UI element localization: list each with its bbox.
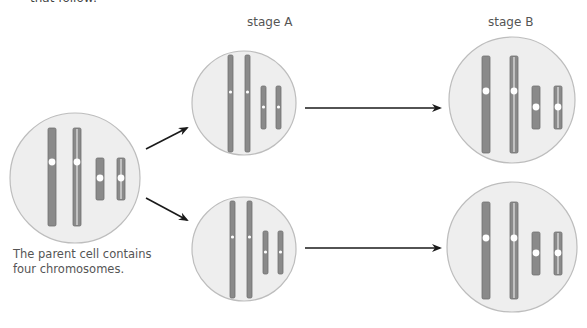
centromere <box>264 250 267 253</box>
chromosome-3 <box>263 231 268 274</box>
parent-cell-caption: The parent cell contains four chromosome… <box>13 247 173 277</box>
centromere <box>49 159 56 166</box>
chromosome-2 <box>247 201 252 298</box>
chromosome-4 <box>554 86 562 129</box>
centromere <box>97 175 104 182</box>
centromere <box>483 88 490 95</box>
chromosome-1 <box>482 202 490 299</box>
chromosome-1 <box>228 55 233 152</box>
centromere <box>246 90 249 93</box>
cell-division-diagram <box>0 0 587 328</box>
centromere <box>229 90 232 93</box>
centromere <box>533 250 540 257</box>
centromere <box>118 175 125 182</box>
centromere <box>279 250 282 253</box>
chromosome-3 <box>261 86 266 129</box>
centromere <box>511 235 518 242</box>
cell-parent <box>10 113 140 243</box>
centromere <box>555 104 562 111</box>
chromosome-3 <box>532 86 540 129</box>
chromosome-2 <box>73 128 81 226</box>
cell-stage-b-bottom <box>447 182 577 312</box>
centromere <box>555 250 562 257</box>
chromosome-1 <box>482 56 490 153</box>
centromere <box>262 105 265 108</box>
arrow-parent-to-a-top <box>146 128 187 149</box>
cell-stage-a-bottom <box>192 197 296 301</box>
chromosome-3 <box>96 158 104 200</box>
centromere <box>248 235 251 238</box>
chromosome-4 <box>117 158 125 200</box>
chromosome-2 <box>510 56 518 153</box>
centromere <box>483 235 490 242</box>
cell-stage-a-top <box>192 51 296 155</box>
chromosome-2 <box>510 202 518 299</box>
chromosome-1 <box>230 201 235 298</box>
chromosome-4 <box>554 232 562 275</box>
centromere <box>74 159 81 166</box>
chromosome-3 <box>532 232 540 275</box>
chromosome-4 <box>276 86 281 129</box>
centromere <box>533 104 540 111</box>
centromere <box>511 88 518 95</box>
centromere <box>231 235 234 238</box>
chromosome-1 <box>48 128 56 226</box>
centromere <box>277 105 280 108</box>
cell-stage-b-top <box>449 37 575 163</box>
chromosome-2 <box>245 55 250 152</box>
chromosome-4 <box>278 231 283 274</box>
arrow-parent-to-a-bottom <box>146 198 187 220</box>
